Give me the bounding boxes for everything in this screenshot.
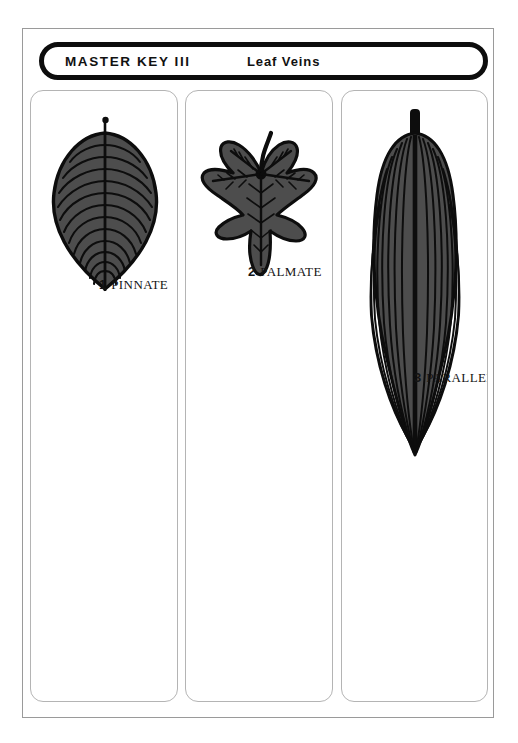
page-title: MASTER KEY III [65,54,191,69]
caption-label: PALMATE [260,264,322,279]
panel-palmate[interactable]: 2PALMATE [185,90,333,702]
panel-parallel[interactable]: 3PARALLEL [341,90,488,702]
caption-number: 2 [248,264,255,279]
caption-palmate: 2PALMATE [248,262,322,280]
caption-parallel: 3PARALLEL [414,368,488,386]
caption-label: PINNATE [111,277,168,292]
panel-pinnate[interactable]: 1PINNATE [30,90,178,702]
caption-label: PARALLEL [426,370,488,385]
specimen-panels: 1PINNATE [30,90,488,702]
header-bar: MASTER KEY III Leaf Veins [39,42,488,80]
page-subtitle: Leaf Veins [247,54,320,69]
caption-pinnate: 1PINNATE [99,275,168,293]
caption-number: 3 [414,370,421,385]
caption-number: 1 [99,277,106,292]
parallel-leaf-icon [346,103,486,473]
